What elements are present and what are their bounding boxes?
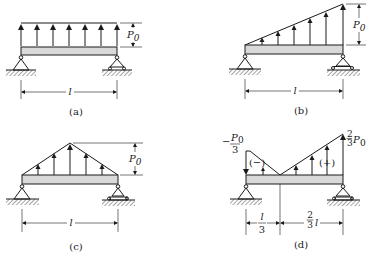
span-label: l [293, 85, 296, 96]
load-arrows [18, 24, 120, 46]
arrowhead-icon [114, 221, 118, 225]
arrowhead-icon [114, 24, 120, 30]
arrowhead-icon [21, 90, 25, 94]
load-arrows [260, 4, 347, 45]
pin-support [6, 185, 39, 205]
right-load-value: 2 3 P 0 [347, 129, 367, 148]
arrowhead-icon [246, 221, 250, 225]
negative-region-label: (−) [249, 157, 265, 168]
svg-text:l: l [315, 217, 318, 228]
beam [22, 175, 118, 184]
arrowhead-icon [131, 43, 135, 47]
arrowhead-icon [98, 24, 104, 30]
figure-b: P0 l (b) [229, 4, 370, 116]
roller-support [102, 185, 135, 206]
svg-text:0: 0 [238, 135, 244, 145]
arrowhead-icon [36, 164, 41, 169]
arrowhead-icon [52, 153, 57, 158]
arrowhead-icon [84, 153, 89, 158]
arrowhead-icon [22, 221, 26, 225]
beam-load-diagrams: P0 l (a) [0, 0, 373, 259]
beam [21, 47, 117, 55]
arrowhead-icon [245, 89, 249, 93]
span-label: l [69, 217, 72, 228]
arrowhead-icon [357, 4, 361, 8]
figure-c: P0 l (c) [6, 143, 145, 252]
arrowhead-icon [339, 221, 343, 225]
figure-caption: (b) [294, 105, 308, 116]
svg-text:3: 3 [232, 144, 238, 155]
svg-text:2: 2 [307, 210, 313, 220]
arrowhead-icon [82, 24, 88, 30]
pin-support [230, 185, 262, 205]
arrowhead-icon [113, 90, 117, 94]
arrowhead-icon [133, 171, 137, 175]
arrowhead-icon [34, 24, 40, 30]
figure-caption: (d) [294, 239, 308, 250]
svg-text:3: 3 [307, 220, 313, 230]
right-span-label: 2 3 l [304, 210, 320, 236]
arrowhead-icon [357, 41, 361, 45]
arrowhead-icon [66, 24, 72, 30]
positive-region-label: (+) [319, 157, 335, 168]
roller-support [327, 185, 360, 206]
beam [245, 45, 343, 54]
svg-text:P: P [352, 134, 360, 145]
arrowhead-icon [243, 169, 249, 175]
pin-support [229, 55, 261, 75]
arrowhead-icon [324, 12, 329, 17]
load-arrows [243, 134, 346, 175]
figure-caption: (c) [69, 241, 83, 252]
arrowhead-icon [131, 23, 135, 27]
svg-text:3: 3 [259, 224, 265, 235]
arrowhead-icon [18, 24, 24, 30]
beam [246, 175, 343, 184]
svg-text:0: 0 [360, 138, 366, 148]
roller-support [102, 56, 132, 76]
pin-support [6, 56, 36, 76]
figure-d: (−) (+) − P 0 3 2 3 P 0 [222, 129, 366, 250]
left-span-label: l 3 [257, 210, 267, 236]
arrowhead-icon [133, 143, 137, 147]
arrowhead-icon [276, 221, 280, 225]
svg-text:P: P [230, 132, 238, 143]
arrowhead-icon [100, 164, 105, 169]
svg-text:−: − [222, 136, 230, 147]
figure-caption: (a) [69, 106, 83, 117]
figure-a: P0 l (a) [6, 23, 142, 117]
arrowhead-icon [280, 221, 284, 225]
arrowhead-icon [339, 89, 343, 93]
left-load-value: − P 0 3 [222, 132, 244, 155]
span-label: l [68, 86, 71, 97]
svg-text:l: l [260, 211, 263, 222]
arrowhead-icon [50, 24, 56, 30]
roller-support [327, 55, 360, 76]
